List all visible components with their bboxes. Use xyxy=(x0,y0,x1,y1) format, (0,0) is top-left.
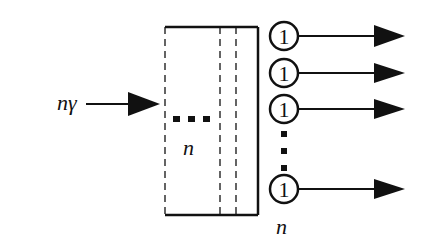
bottom-label: n xyxy=(276,214,287,239)
ellipsis-dots-vertical xyxy=(281,131,287,171)
output-node: 1 xyxy=(270,95,405,123)
svg-text:1: 1 xyxy=(279,61,290,86)
svg-text:1: 1 xyxy=(279,177,290,202)
input-arrow xyxy=(86,92,160,116)
output-node: 1 xyxy=(270,175,405,203)
svg-text:1: 1 xyxy=(279,97,290,122)
input-label: nγ xyxy=(57,90,78,115)
svg-text:1: 1 xyxy=(279,24,290,49)
output-node: 1 xyxy=(270,22,405,50)
output-node: 1 xyxy=(270,59,405,87)
inner-label: n xyxy=(183,135,194,160)
diagram-canvas: nγ n 1 1 1 xyxy=(0,0,429,250)
ellipsis-dots-horizontal xyxy=(173,116,210,122)
